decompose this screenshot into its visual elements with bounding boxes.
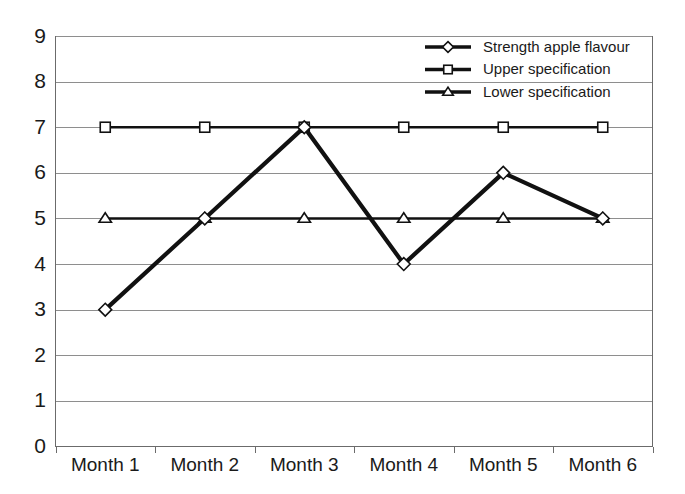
square-marker-icon [100,122,110,132]
y-tick-label-0: 0 [34,434,46,457]
x-tick-label-4: Month 4 [369,454,438,475]
y-tick-label-7: 7 [34,115,46,138]
control-chart: 9876543210 Month 1Month 2Month 3Month 4M… [0,0,685,494]
y-tick-label-5: 5 [34,206,46,229]
x-tick-label-3: Month 3 [270,454,339,475]
legend-label: Upper specification [483,60,611,77]
y-tick-label-3: 3 [34,297,46,320]
y-tick-label-2: 2 [34,343,46,366]
square-marker-icon [399,122,409,132]
x-tick-label-5: Month 5 [469,454,538,475]
chart-svg: 9876543210 Month 1Month 2Month 3Month 4M… [0,0,685,494]
x-tick-label-6: Month 6 [568,454,637,475]
square-marker-icon [444,65,453,74]
y-tick-label-1: 1 [34,388,46,411]
y-tick-label-8: 8 [34,69,46,92]
legend-label: Lower specification [483,83,611,100]
y-tick-label-9: 9 [34,24,46,47]
square-marker-icon [498,122,508,132]
legend-label: Strength apple flavour [483,38,630,55]
y-tick-label-4: 4 [34,252,46,275]
x-tick-label-1: Month 1 [71,454,140,475]
square-marker-icon [598,122,608,132]
x-tick-label-2: Month 2 [170,454,239,475]
legend: Strength apple flavourUpper specificatio… [425,38,630,100]
y-tick-label-6: 6 [34,160,46,183]
square-marker-icon [200,122,210,132]
